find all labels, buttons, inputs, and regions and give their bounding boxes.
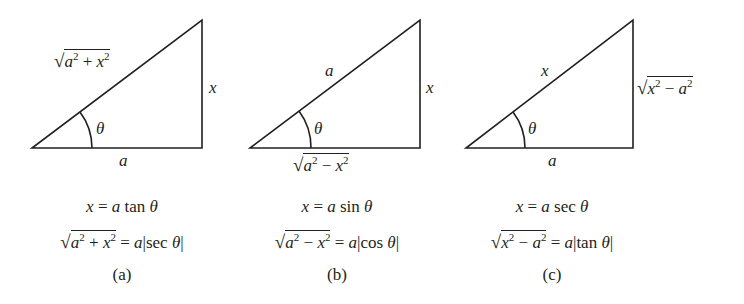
- opposite-label-c: √x2 − a2: [637, 76, 693, 97]
- caption-c: (c): [530, 266, 574, 283]
- adjacent-label-c: a: [548, 152, 557, 169]
- opposite-label-b: x: [426, 79, 434, 96]
- triangle-b: [250, 20, 420, 148]
- hypotenuse-label-a: √a2 + x2: [54, 49, 110, 70]
- adjacent-label-a: a: [119, 152, 128, 169]
- opposite-label-a: x: [209, 79, 217, 96]
- caption-a: (a): [100, 266, 144, 283]
- triangle-c: [466, 20, 633, 148]
- identity-c: √x2 − a2 = a|tan θ|: [460, 230, 644, 251]
- substitution-c: x = a sec θ: [470, 198, 634, 215]
- hypotenuse-label-b: a: [325, 62, 334, 79]
- angle-arc-c: [513, 112, 525, 148]
- triangles: [0, 0, 744, 304]
- identity-b: √a2 − x2 = a|cos θ|: [245, 230, 429, 251]
- adjacent-label-b: √a2 − x2: [293, 153, 349, 174]
- hypotenuse-label-c: x: [541, 62, 549, 79]
- caption-b: (b): [315, 266, 359, 283]
- substitution-b: x = a sin θ: [255, 198, 419, 215]
- angle-arc-a: [80, 112, 92, 148]
- substitution-a: x = a tan θ: [40, 198, 204, 215]
- angle-label-a: θ: [96, 120, 104, 137]
- angle-arc-b: [299, 111, 311, 148]
- angle-label-b: θ: [314, 120, 322, 137]
- angle-label-c: θ: [528, 120, 536, 137]
- identity-a: √a2 + x2 = a|sec θ|: [30, 230, 214, 251]
- triangle-a: [32, 20, 202, 148]
